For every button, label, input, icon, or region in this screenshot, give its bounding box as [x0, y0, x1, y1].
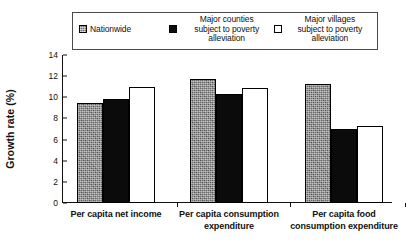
bar: [216, 94, 242, 203]
bar-group: [77, 55, 155, 203]
bar: [331, 129, 357, 203]
y-axis-tick-label: 14: [49, 50, 63, 60]
legend-label-major-villages: Major villages subject to poverty allevi…: [285, 15, 375, 44]
legend-label-nationwide: Nationwide: [90, 25, 169, 35]
y-axis-title: Growth rate (%): [2, 55, 18, 203]
legend-line: alleviation: [285, 34, 375, 44]
bar: [190, 79, 216, 203]
x-axis-label-line: Per capita net income: [59, 208, 173, 220]
y-axis-tick-label: 10: [49, 92, 63, 102]
x-axis-label-line: expenditure: [172, 220, 286, 232]
x-axis-label-line: consumption expenditure: [287, 220, 401, 232]
legend-swatch-black-icon: [169, 25, 177, 33]
y-axis-title-text: Growth rate (%): [4, 89, 16, 169]
x-axis-tick-mark: [405, 203, 406, 207]
x-axis-tick-mark: [290, 203, 291, 207]
bar: [357, 126, 383, 203]
bar: [242, 88, 268, 203]
legend-entry-major-counties: Major counties subject to poverty allevi…: [169, 15, 274, 44]
bar-group: [305, 55, 383, 203]
legend-swatch-gray-icon: [79, 25, 87, 33]
legend-entry-major-villages: Major villages subject to poverty allevi…: [274, 15, 375, 44]
legend-label-major-counties: Major counties subject to poverty allevi…: [180, 15, 274, 44]
bar: [129, 87, 155, 203]
bar-group: [190, 55, 268, 203]
x-axis-label-line: Per capita consumption: [172, 208, 286, 220]
x-axis-label-line: Per capita food: [287, 208, 401, 220]
legend-line: Nationwide: [90, 25, 169, 35]
legend-entry-nationwide: Nationwide: [75, 15, 169, 35]
y-axis-tick-label: 12: [49, 71, 63, 81]
bar-groups: [62, 55, 392, 203]
x-axis-labels: Per capita net incomePer capita consumpt…: [62, 208, 406, 244]
x-axis-tick-mark: [177, 203, 178, 207]
legend-line: alleviation: [180, 34, 274, 44]
bar-chart: Nationwide Major counties subject to pov…: [0, 0, 416, 247]
x-axis-label: Per capita consumptionexpenditure: [172, 208, 286, 232]
x-axis-label: Per capita foodconsumption expenditure: [287, 208, 401, 232]
bar: [103, 99, 129, 203]
bar: [305, 84, 331, 203]
legend-swatch-white-icon: [274, 25, 282, 33]
x-axis-label: Per capita net income: [59, 208, 173, 220]
chart-legend: Nationwide Major counties subject to pov…: [72, 12, 378, 50]
bar: [77, 103, 103, 203]
